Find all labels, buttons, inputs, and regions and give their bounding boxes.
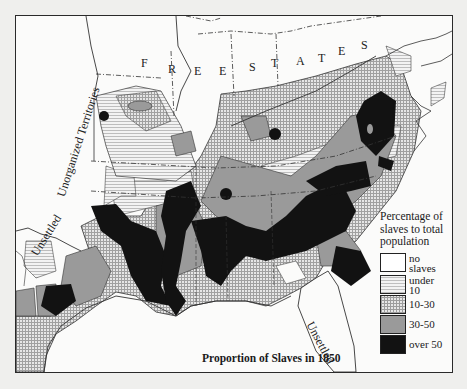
free-states-letter: E <box>338 44 345 59</box>
free-states-letter: S <box>249 60 256 75</box>
swatch-over-50 <box>380 335 406 354</box>
free-states-letter: S <box>361 38 368 53</box>
swatch-30-50 <box>380 315 406 334</box>
legend-item-10-30: 10-30 <box>380 295 451 315</box>
free-states-letter: T <box>318 51 325 66</box>
free-states-letter: R <box>168 62 176 77</box>
free-states-letter: E <box>219 64 226 79</box>
swatch-under-10 <box>380 275 406 294</box>
legend-item-30-50: 30-50 <box>380 315 451 335</box>
swatch-no-slaves <box>380 253 406 272</box>
free-states-letter: F <box>141 56 148 71</box>
free-states-letter: E <box>194 64 201 79</box>
legend: Percentage of slaves to total population… <box>375 210 451 355</box>
free-states-letter: A <box>296 54 305 69</box>
map-title: Proportion of Slaves in 1850 <box>202 352 340 364</box>
legend-heading: Percentage of slaves to total population <box>380 210 451 248</box>
legend-item-no-slaves: no slaves <box>380 253 451 273</box>
free-states-letter: T <box>271 56 278 71</box>
legend-item-under-10: under 10 <box>380 275 451 295</box>
swatch-10-30 <box>380 295 406 314</box>
legend-item-over-50: over 50 <box>380 335 451 355</box>
